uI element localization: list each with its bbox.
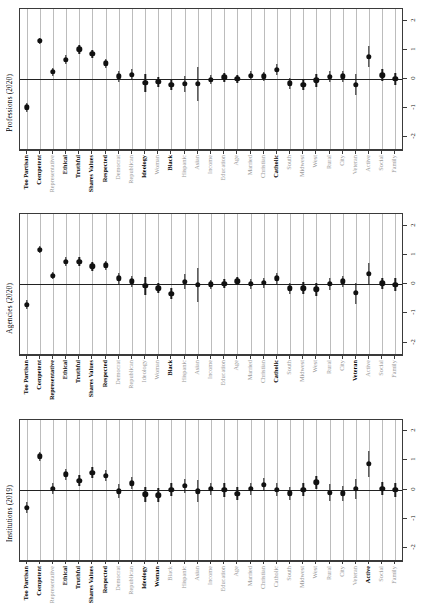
x-axis-label-ethical: Ethical	[62, 566, 68, 585]
x-axis-label-catholic: Catholic	[273, 566, 279, 587]
point-estimate-dot	[301, 285, 306, 290]
x-axis-tick-mark	[381, 150, 382, 154]
estimate-point-west	[313, 9, 319, 149]
point-estimate-dot	[353, 82, 358, 87]
x-axis-tick-mark	[210, 150, 211, 154]
point-estimate-dot	[208, 486, 213, 491]
x-axis-label-competent: Competent	[36, 566, 42, 596]
estimate-point-midwest	[300, 214, 306, 354]
x-axis-tick-mark	[302, 561, 303, 565]
x-axis-label-social: Social	[378, 155, 384, 171]
estimate-point-ethical	[63, 9, 69, 149]
x-axis-tick-mark	[355, 355, 356, 359]
x-axis-label-hispanic: Hispanic	[180, 155, 186, 177]
point-estimate-dot	[366, 54, 371, 59]
point-estimate-dot	[37, 38, 42, 43]
point-estimate-dot	[314, 287, 319, 292]
x-axis-label-midwest: Midwest	[299, 155, 305, 177]
y-axis-tick-label: 0	[409, 282, 416, 285]
x-axis-tick-mark	[144, 355, 145, 359]
x-axis-label-democrat: Democrat	[115, 155, 121, 180]
panel-y-axis-title: Institutions (2019)	[2, 411, 18, 616]
x-axis-tick-mark	[276, 150, 277, 154]
x-axis-label-age: Age	[233, 566, 239, 577]
x-axis-tick-mark	[315, 561, 316, 565]
point-estimate-dot	[380, 281, 385, 286]
point-estimate-dot	[129, 481, 134, 486]
estimate-point-representative	[50, 214, 56, 354]
point-estimate-dot	[24, 505, 29, 510]
estimate-point-social	[379, 420, 385, 560]
x-axis-tick-mark	[394, 355, 395, 359]
point-estimate-dot	[103, 473, 108, 478]
estimate-point-veteran	[353, 9, 359, 149]
point-estimate-dot	[314, 480, 319, 485]
estimate-point-married	[248, 214, 254, 354]
x-axis-tick-mark	[131, 150, 132, 154]
y-axis-tick-mark	[403, 489, 407, 490]
x-axis-tick-mark	[184, 150, 185, 154]
point-estimate-dot	[287, 490, 292, 495]
x-axis-tick-mark	[52, 561, 53, 565]
y-axis-tick-mark	[403, 78, 407, 79]
point-estimate-dot	[116, 488, 121, 493]
x-axis-label-age: Age	[233, 360, 239, 371]
x-axis-tick-mark	[355, 561, 356, 565]
x-axis-label-midwest: Midwest	[299, 360, 305, 382]
estimate-point-family	[392, 420, 398, 560]
x-axis-tick-mark	[91, 150, 92, 154]
estimate-point-city	[340, 214, 346, 354]
y-axis-tick-label: 0	[409, 76, 416, 79]
estimate-point-rural	[327, 420, 333, 560]
estimate-point-age	[234, 9, 240, 149]
x-axis-tick-mark	[368, 150, 369, 154]
estimate-point-family	[392, 9, 398, 149]
x-axis-label-woman: Woman	[154, 155, 160, 174]
y-axis-tick-label: -1	[409, 515, 416, 521]
estimate-point-ideology	[142, 214, 148, 354]
panel-y-axis-title: Agencies (2020)	[2, 205, 18, 410]
x-axis-tick-mark	[329, 150, 330, 154]
y-axis-tick-label: 2	[409, 429, 416, 432]
estimate-point-christian	[261, 9, 267, 149]
point-estimate-dot	[77, 478, 82, 483]
x-axis-tick-mark	[170, 355, 171, 359]
x-axis-tick-mark	[289, 150, 290, 154]
estimate-point-republican	[129, 9, 135, 149]
x-axis-tick-mark	[223, 561, 224, 565]
point-estimate-dot	[195, 81, 200, 86]
point-estimate-dot	[327, 490, 332, 495]
x-axis-tick-mark	[223, 150, 224, 154]
x-axis-tick-mark	[250, 355, 251, 359]
estimate-point-representative	[50, 420, 56, 560]
point-estimate-dot	[327, 281, 332, 286]
estimate-point-south	[287, 214, 293, 354]
x-axis-tick-mark	[329, 355, 330, 359]
x-axis-label-ideology: Ideology	[141, 566, 147, 589]
point-estimate-dot	[129, 279, 134, 284]
point-estimate-dot	[63, 259, 68, 264]
point-estimate-dot	[221, 75, 226, 80]
y-axis-tick-mark	[403, 254, 407, 255]
y-axis-tick-mark	[403, 430, 407, 431]
estimate-point-too-partisan	[24, 214, 30, 354]
x-axis-tick-mark	[91, 355, 92, 359]
estimate-point-city	[340, 9, 346, 149]
y-axis-tick-label: -1	[409, 104, 416, 110]
point-estimate-dot	[380, 73, 385, 78]
point-estimate-dot	[208, 77, 213, 82]
x-axis-label-catholic: Catholic	[273, 360, 279, 383]
panel-1: Professions (2020)210-1-2Too PartisanCom…	[0, 0, 431, 205]
estimate-point-social	[379, 9, 385, 149]
x-axis-tick-mark	[78, 561, 79, 565]
point-estimate-dot	[90, 470, 95, 475]
panel-y-axis-title-text: Institutions (2019)	[6, 485, 14, 542]
x-axis-labels: Too PartisanCompetentRepresentativeEthic…	[19, 155, 403, 205]
x-axis-tick-mark	[302, 355, 303, 359]
x-axis-tick-mark	[368, 355, 369, 359]
point-estimate-dot	[274, 67, 279, 72]
point-estimate-dot	[208, 282, 213, 287]
point-estimate-dot	[24, 105, 29, 110]
y-axis-tick-mark	[403, 225, 407, 226]
x-axis-tick-mark	[197, 355, 198, 359]
